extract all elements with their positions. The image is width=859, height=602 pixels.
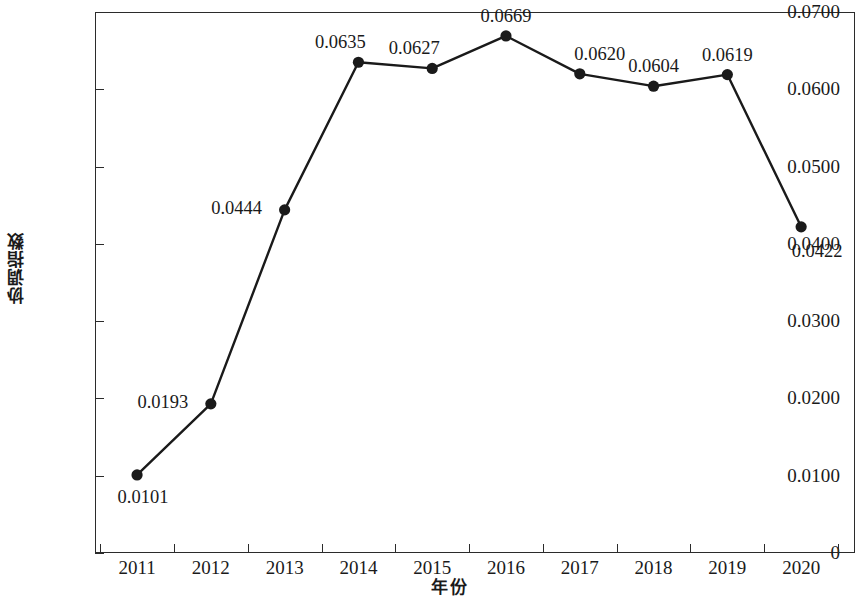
data-point-label: 0.0101: [118, 487, 169, 506]
x-axis-title: 年份: [0, 576, 859, 598]
x-tick-label: 2012: [171, 558, 251, 578]
y-tick-label: 0.0300: [752, 311, 840, 330]
x-tick-mark: [395, 544, 396, 553]
y-tick-mark: [95, 167, 104, 168]
x-tick-mark: [322, 544, 323, 553]
x-tick-label: 2019: [687, 558, 767, 578]
data-point-label: 0.0619: [702, 45, 753, 64]
y-tick-mark: [95, 321, 104, 322]
y-tick-mark: [95, 89, 104, 90]
y-tick-label: 0.0100: [752, 466, 840, 485]
x-tick-label: 2014: [318, 558, 398, 578]
y-tick-label: 0.0600: [752, 79, 840, 98]
x-tick-label: 2016: [466, 558, 546, 578]
data-point-label: 0.0604: [628, 57, 679, 76]
data-point-label: 0.0669: [481, 6, 532, 25]
y-axis-title: 协调指数: [2, 232, 30, 304]
plot-area-frame: [95, 12, 855, 553]
x-tick-label: 2018: [614, 558, 694, 578]
x-tick-mark: [617, 544, 618, 553]
data-point-label: 0.0627: [389, 39, 440, 58]
y-tick-mark: [95, 398, 104, 399]
x-tick-label: 2020: [761, 558, 841, 578]
y-tick-mark: [95, 553, 104, 554]
x-tick-mark: [690, 544, 691, 553]
x-tick-mark: [174, 544, 175, 553]
x-tick-mark: [543, 544, 544, 553]
x-tick-mark: [100, 544, 101, 553]
y-tick-mark: [95, 476, 104, 477]
x-tick-label: 2011: [97, 558, 177, 578]
x-tick-mark: [838, 544, 839, 553]
x-tick-mark: [764, 544, 765, 553]
x-tick-mark: [248, 544, 249, 553]
data-point-label: 0.0620: [574, 44, 625, 63]
y-tick-label: 0.0200: [752, 388, 840, 407]
data-point-label: 0.0444: [211, 198, 262, 217]
y-tick-label: 0.0700: [752, 2, 840, 21]
x-tick-label: 2015: [392, 558, 472, 578]
x-tick-mark: [469, 544, 470, 553]
data-point-label: 0.0422: [792, 241, 843, 260]
y-tick-mark: [95, 244, 104, 245]
data-point-label: 0.0193: [137, 392, 188, 411]
y-tick-label: 0.0500: [752, 157, 840, 176]
data-point-label: 0.0635: [315, 33, 366, 52]
x-tick-label: 2013: [245, 558, 325, 578]
x-tick-label: 2017: [540, 558, 620, 578]
